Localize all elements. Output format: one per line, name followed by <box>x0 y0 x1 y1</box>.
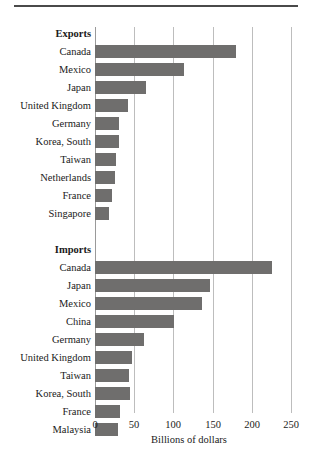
category-label-imports-0: Canada <box>0 259 91 277</box>
bar-row-imports-china <box>95 313 291 331</box>
category-label-imports-5: United Kingdom <box>0 349 91 367</box>
bar-imports-5 <box>95 351 132 364</box>
bar-exports-7 <box>95 171 115 184</box>
bar-imports-2 <box>95 297 202 310</box>
bar-row-exports-korea-south <box>95 133 291 151</box>
bar-row-exports-united-kingdom <box>95 97 291 115</box>
category-label-imports-6: Taiwan <box>0 367 91 385</box>
bar-row-exports-netherlands <box>95 169 291 187</box>
bar-row-imports-korea-south <box>95 385 291 403</box>
bar-row-exports-canada <box>95 43 291 61</box>
x-tick-label-2: 100 <box>165 418 181 432</box>
bar-exports-1 <box>95 63 184 76</box>
plot-area <box>95 27 291 413</box>
category-label-imports-7: Korea, South <box>0 385 91 403</box>
bar-row-exports-singapore <box>95 205 291 223</box>
bar-exports-0 <box>95 45 236 58</box>
category-label-exports-0: Canada <box>0 43 91 61</box>
bar-exports-6 <box>95 153 116 166</box>
category-label-imports-2: Mexico <box>0 295 91 313</box>
bar-imports-3 <box>95 315 174 328</box>
category-label-imports-1: Japan <box>0 277 91 295</box>
bar-imports-0 <box>95 261 272 274</box>
bar-row-imports-canada <box>95 259 291 277</box>
x-axis-tick-labels: 0 50 100 150 200 250 <box>0 418 312 432</box>
category-label-exports-8: France <box>0 187 91 205</box>
x-tick-label-3: 150 <box>205 418 221 432</box>
bar-imports-6 <box>95 369 129 382</box>
bar-row-exports-france <box>95 187 291 205</box>
bar-chart-figure: Exports Canada Mexico Japan United Kingd… <box>0 0 312 464</box>
category-label-exports-4: Germany <box>0 115 91 133</box>
bar-row-imports-japan <box>95 277 291 295</box>
x-tick-label-5: 250 <box>283 418 299 432</box>
bar-exports-2 <box>95 81 146 94</box>
category-label-imports-4: Germany <box>0 331 91 349</box>
bar-imports-7 <box>95 387 130 400</box>
category-label-exports-1: Mexico <box>0 61 91 79</box>
gridline-250 <box>291 27 292 413</box>
bar-exports-9 <box>95 207 109 220</box>
bar-exports-5 <box>95 135 119 148</box>
bar-row-imports-taiwan <box>95 367 291 385</box>
top-divider-rule <box>14 5 298 7</box>
category-label-exports-7: Netherlands <box>0 169 91 187</box>
x-tick-label-4: 200 <box>244 418 260 432</box>
category-label-exports-3: United Kingdom <box>0 97 91 115</box>
bar-row-imports-germany <box>95 331 291 349</box>
x-tick-label-1: 50 <box>129 418 140 432</box>
bar-imports-4 <box>95 333 144 346</box>
category-label-exports-6: Taiwan <box>0 151 91 169</box>
category-label-exports-2: Japan <box>0 79 91 97</box>
bar-exports-3 <box>95 99 128 112</box>
bar-exports-4 <box>95 117 119 130</box>
x-tick-label-0: 0 <box>92 418 97 432</box>
x-axis-title: Billions of dollars <box>0 433 312 447</box>
bar-exports-8 <box>95 189 112 202</box>
bar-row-exports-germany <box>95 115 291 133</box>
bar-row-exports-taiwan <box>95 151 291 169</box>
bar-row-exports-japan <box>95 79 291 97</box>
group-label-exports: Exports <box>0 25 91 43</box>
x-axis-title-text: Billions of dollars <box>151 433 227 447</box>
category-label-imports-3: China <box>0 313 91 331</box>
category-label-exports-9: Singapore <box>0 205 91 223</box>
category-label-exports-5: Korea, South <box>0 133 91 151</box>
bar-imports-8 <box>95 405 120 418</box>
bar-imports-1 <box>95 279 210 292</box>
bar-row-imports-united-kingdom <box>95 349 291 367</box>
bar-row-imports-mexico <box>95 295 291 313</box>
bar-row-exports-mexico <box>95 61 291 79</box>
group-label-imports: Imports <box>0 241 91 259</box>
